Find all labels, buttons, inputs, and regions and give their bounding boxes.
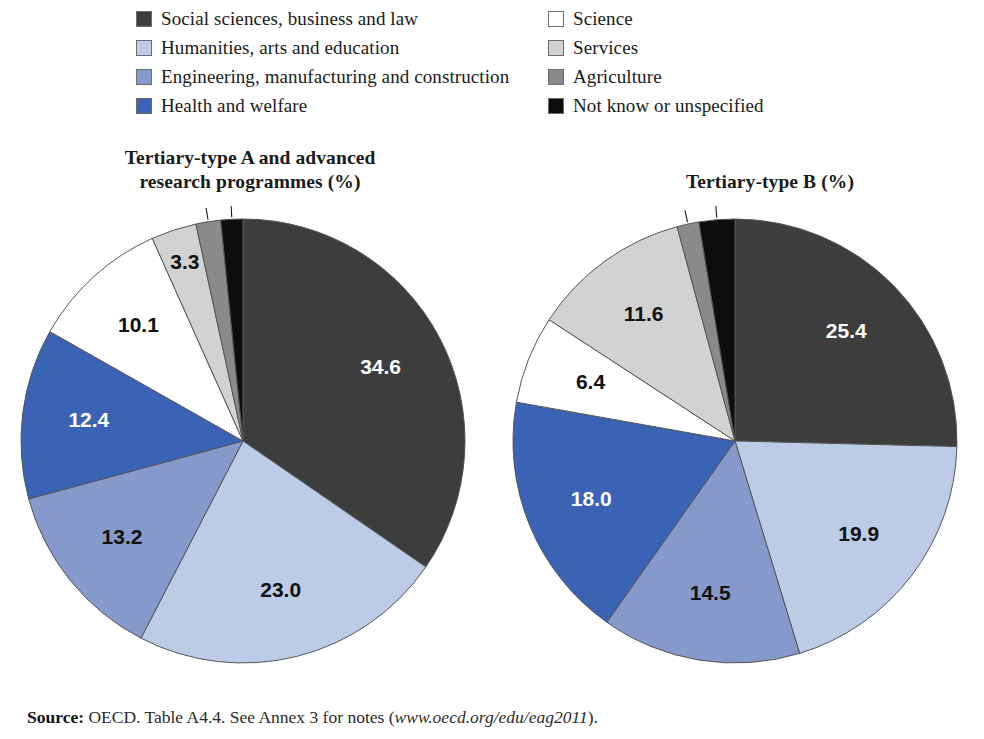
legend-item-not-known: Not know or unspecified xyxy=(548,93,848,118)
label-leader-line xyxy=(685,210,688,222)
source-note: Source: OECD. Table A4.4. See Annex 3 fo… xyxy=(27,706,598,728)
legend-item-humanities: Humanities, arts and education xyxy=(136,35,548,60)
legend-label-science: Science xyxy=(573,8,633,30)
legend-item-engineering: Engineering, manufacturing and construct… xyxy=(136,64,548,89)
chart-title-right: Tertiary-type B (%) xyxy=(560,170,980,194)
pie-svg: 34.623.013.212.410.13.31.81.6 xyxy=(8,206,478,676)
chart-title-left: Tertiary-type A and advanced research pr… xyxy=(40,146,460,194)
pie-slice-value-label: 6.4 xyxy=(576,370,606,393)
legend-column-left: Social sciences, business and law Humani… xyxy=(136,6,548,118)
legend-item-social-sciences: Social sciences, business and law xyxy=(136,6,548,31)
legend-swatch-services xyxy=(548,40,564,56)
legend-column-right: Science Services Agriculture Not know or… xyxy=(548,6,848,118)
legend-swatch-health xyxy=(136,98,152,114)
pie-slice-value-label: 14.5 xyxy=(690,581,731,604)
legend-label-health: Health and welfare xyxy=(161,95,307,117)
legend-swatch-not-known xyxy=(548,98,564,114)
pie-chart-tertiary-type-a: 34.623.013.212.410.13.31.81.6 xyxy=(8,206,478,676)
chart-legend: Social sciences, business and law Humani… xyxy=(0,6,984,118)
pie-slice-value-label: 18.0 xyxy=(571,487,612,510)
legend-label-humanities: Humanities, arts and education xyxy=(161,37,399,59)
pie-slice-value-label: 13.2 xyxy=(102,525,143,548)
legend-label-agriculture: Agriculture xyxy=(573,66,662,88)
source-url: www.oecd.org/edu/eag2011 xyxy=(395,707,588,727)
legend-swatch-social-sciences xyxy=(136,11,152,27)
source-label: Source: xyxy=(27,707,84,727)
pie-slice-value-label: 12.4 xyxy=(68,408,109,431)
legend-label-services: Services xyxy=(573,37,638,59)
legend-swatch-humanities xyxy=(136,40,152,56)
pie-slice-value-label: 3.3 xyxy=(170,250,199,273)
source-text: OECD. Table A4.4. See Annex 3 for notes … xyxy=(84,707,395,727)
chart-title-left-line1: Tertiary-type A and advanced xyxy=(40,146,460,170)
label-leader-line xyxy=(716,206,717,218)
source-tail: ). xyxy=(588,707,598,727)
pie-slice-value-label: 25.4 xyxy=(826,319,867,342)
pie-slice-value-label: 34.6 xyxy=(360,355,401,378)
pie-slice-value-label: 23.0 xyxy=(260,578,301,601)
legend-label-social-sciences: Social sciences, business and law xyxy=(161,8,418,30)
pie-slice-value-label: 19.9 xyxy=(838,522,879,545)
legend-item-science: Science xyxy=(548,6,848,31)
legend-swatch-science xyxy=(548,11,564,27)
legend-swatch-agriculture xyxy=(548,69,564,85)
label-leader-line xyxy=(231,206,232,217)
chart-title-left-line2: research programmes (%) xyxy=(40,170,460,194)
legend-item-agriculture: Agriculture xyxy=(548,64,848,89)
pie-slice-value-label: 10.1 xyxy=(118,313,159,336)
legend-item-health: Health and welfare xyxy=(136,93,548,118)
legend-item-services: Services xyxy=(548,35,848,60)
legend-swatch-engineering xyxy=(136,69,152,85)
pie-chart-tertiary-type-b: 25.419.914.518.06.411.61.62.6 xyxy=(500,206,970,676)
pie-slice-value-label: 11.6 xyxy=(624,302,664,325)
label-leader-line xyxy=(206,208,208,220)
pie-svg: 25.419.914.518.06.411.61.62.6 xyxy=(500,206,970,676)
legend-label-engineering: Engineering, manufacturing and construct… xyxy=(161,66,509,88)
legend-label-not-known: Not know or unspecified xyxy=(573,95,764,117)
